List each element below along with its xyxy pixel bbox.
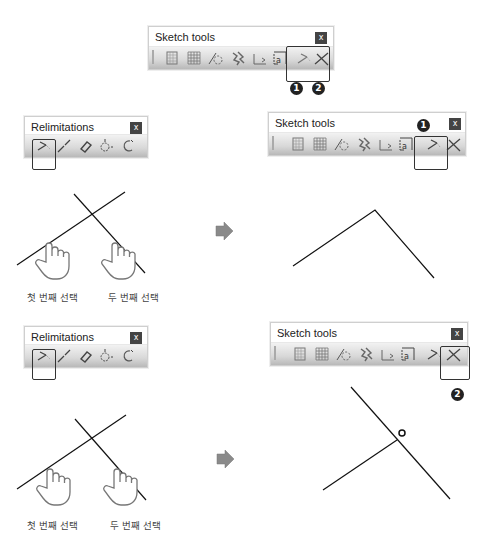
toolbar-title: Relimitations	[31, 121, 94, 133]
construction-element-icon[interactable]	[335, 345, 353, 363]
hand-cursor-icon	[104, 469, 137, 505]
section1-lines-before	[17, 192, 145, 273]
badge-2: 2	[451, 388, 464, 401]
close-button[interactable]: x	[130, 332, 142, 344]
close-button[interactable]: x	[315, 32, 327, 44]
grid-icon[interactable]	[185, 49, 203, 67]
section2-lines-before	[17, 415, 146, 500]
hand-cursor-icon	[37, 469, 70, 505]
highlight-trim	[32, 349, 56, 380]
close-button[interactable]: x	[451, 328, 463, 340]
section2-lines-after	[323, 387, 450, 499]
grid-snap-icon[interactable]	[291, 345, 309, 363]
geometric-constraint-icon[interactable]	[357, 345, 375, 363]
section1-lines-after	[293, 210, 434, 278]
toolbar-title: Sketch tools	[155, 31, 215, 43]
sketch-tools-toolbar-2: Sketch tools x a	[270, 322, 468, 366]
caption-first-select: 첫 번째 선택	[27, 290, 78, 304]
arrow-right-icon	[216, 222, 233, 240]
close-arc-icon[interactable]	[97, 137, 115, 155]
dimensional-constraint-icon[interactable]	[251, 49, 269, 67]
highlight-trim	[32, 139, 56, 170]
complement-icon[interactable]	[119, 347, 137, 365]
highlight-trim	[414, 136, 448, 170]
badge-2: 2	[312, 82, 325, 95]
toolbar-grip[interactable]	[274, 346, 276, 360]
auto-constraint-icon[interactable]: a	[397, 135, 415, 153]
hand-cursor-icon	[36, 243, 69, 279]
geometric-constraint-icon[interactable]	[355, 135, 373, 153]
highlight-trim-break	[286, 46, 330, 82]
hand-cursor-icon	[102, 243, 135, 279]
grid-snap-icon[interactable]	[163, 49, 181, 67]
dimensional-constraint-icon[interactable]	[379, 345, 397, 363]
toolbar-title: Relimitations	[31, 331, 94, 343]
quick-trim-icon[interactable]	[77, 137, 95, 155]
grid-icon[interactable]	[313, 345, 331, 363]
grid-snap-icon[interactable]	[289, 135, 307, 153]
dimensional-constraint-icon[interactable]	[377, 135, 395, 153]
caption-second-select: 두 번째 선택	[108, 290, 159, 304]
toolbar-icon-strip: a	[271, 342, 467, 365]
construction-element-icon[interactable]	[333, 135, 351, 153]
badge-1: 1	[290, 82, 303, 95]
svg-text:a: a	[404, 352, 409, 361]
break-icon[interactable]	[55, 137, 73, 155]
quick-trim-icon[interactable]	[77, 347, 95, 365]
svg-text:a: a	[402, 142, 407, 151]
toolbar-title: Sketch tools	[275, 117, 335, 129]
close-arc-icon[interactable]	[97, 347, 115, 365]
toolbar-grip[interactable]	[272, 136, 274, 150]
close-button[interactable]: x	[130, 122, 142, 134]
arrow-right-icon	[217, 450, 234, 468]
highlight-break	[440, 346, 470, 380]
grid-icon[interactable]	[311, 135, 329, 153]
complement-icon[interactable]	[119, 137, 137, 155]
caption-first-select: 첫 번째 선택	[27, 518, 78, 532]
auto-constraint-icon[interactable]: a	[399, 345, 417, 363]
toolbar-grip[interactable]	[152, 50, 154, 64]
construction-element-icon[interactable]	[207, 49, 225, 67]
geometry-drawings	[0, 0, 482, 540]
toolbar-title: Sketch tools	[277, 327, 337, 339]
break-point-marker	[399, 430, 405, 436]
geometric-constraint-icon[interactable]	[229, 49, 247, 67]
caption-second-select: 두 번째 선택	[110, 518, 161, 532]
badge-1: 1	[417, 119, 430, 132]
svg-text:a: a	[276, 56, 281, 65]
close-button[interactable]: x	[449, 118, 461, 130]
break-icon[interactable]	[55, 347, 73, 365]
